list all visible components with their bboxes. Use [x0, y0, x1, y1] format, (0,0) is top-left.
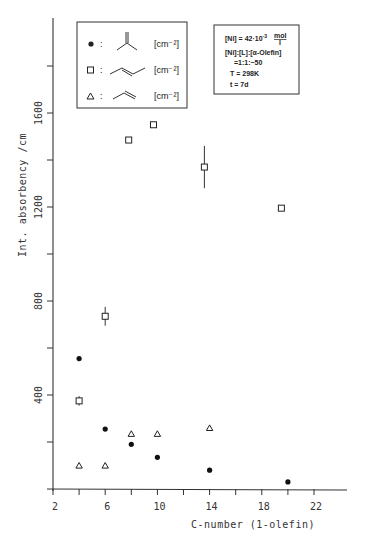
legend-unit-2: [cm⁻²]: [154, 65, 179, 75]
data-point-square: [150, 122, 156, 128]
y-tick-label: 1200: [33, 195, 44, 219]
condition-ratio-label: [Ni]:[L]:[α-Olefin]: [225, 49, 281, 57]
y-tick-label: 1600: [33, 101, 44, 125]
legend-separator: :: [100, 39, 103, 49]
y-axis-title: Int. absorbency /cm: [17, 133, 28, 257]
legend-unit-1: [cm⁻²]: [154, 39, 179, 49]
axis-ticks: [47, 66, 314, 495]
conditions-box: [Ni] = 42·10-3 mol l [Ni]:[L]:[α-Olefin]…: [214, 25, 299, 94]
open-square-marker-icon: [88, 67, 94, 73]
data-point-circle: [103, 426, 108, 431]
data-point-square: [201, 164, 207, 170]
data-point-circle: [77, 356, 82, 361]
data-points: [76, 122, 291, 485]
legend-separator: :: [100, 65, 103, 75]
x-tick-label: 10: [153, 501, 165, 512]
axis-tick-labels: 261014182240080012001600: [33, 101, 322, 512]
data-point-circle: [285, 479, 290, 484]
x-axis-title: C-number (1-olefin): [191, 519, 315, 530]
data-point-triangle: [154, 431, 160, 437]
y-tick-label: 800: [33, 292, 44, 310]
data-point-circle: [207, 468, 212, 473]
data-point-circle: [129, 442, 134, 447]
scatter-chart: 261014182240080012001600 C-number (1-ole…: [0, 0, 370, 544]
x-tick-label: 22: [310, 501, 322, 512]
data-point-triangle: [76, 463, 82, 469]
x-tick-label: 14: [206, 501, 218, 512]
condition-temperature: T = 298K: [230, 70, 259, 77]
data-point-square: [102, 313, 108, 319]
condition-unit-numerator: mol: [274, 32, 287, 39]
data-point-square: [126, 137, 132, 143]
x-tick-label: 2: [52, 501, 58, 512]
legend-separator: :: [100, 91, 103, 101]
condition-ni-concentration: [Ni] = 42·10-3: [225, 33, 267, 43]
condition-unit-denominator: l: [279, 39, 281, 46]
x-axis-line: [47, 489, 347, 490]
data-point-triangle: [206, 425, 212, 431]
condition-time: t = 7d: [230, 81, 248, 88]
condition-ratio-value: =1:1:~50: [234, 59, 263, 66]
x-tick-label: 6: [104, 501, 110, 512]
legend: : [cm⁻²] : [cm⁻²] : [cm⁻²]: [77, 22, 187, 108]
data-point-triangle: [128, 431, 134, 437]
data-point-square: [278, 205, 284, 211]
y-tick-label: 400: [33, 386, 44, 404]
legend-unit-3: [cm⁻²]: [154, 91, 179, 101]
data-point-circle: [155, 455, 160, 460]
data-point-triangle: [102, 463, 108, 469]
data-point-square: [76, 398, 82, 404]
x-tick-label: 18: [258, 501, 270, 512]
filled-circle-marker-icon: [88, 41, 93, 46]
